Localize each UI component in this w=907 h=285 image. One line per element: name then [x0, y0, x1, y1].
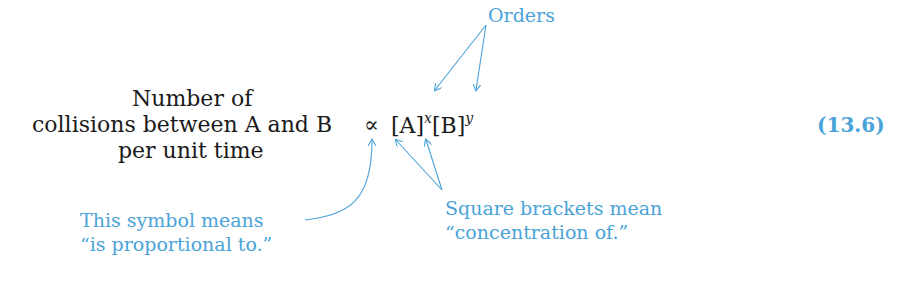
- orders-arrow-y-icon: [476, 25, 486, 90]
- annotation-arrows: [0, 0, 907, 285]
- symbol-arrow-icon: [305, 140, 372, 220]
- orders-arrow-x-icon: [435, 25, 486, 90]
- bracket-arrow-b-icon: [426, 140, 442, 190]
- bracket-arrow-a-icon: [396, 140, 442, 190]
